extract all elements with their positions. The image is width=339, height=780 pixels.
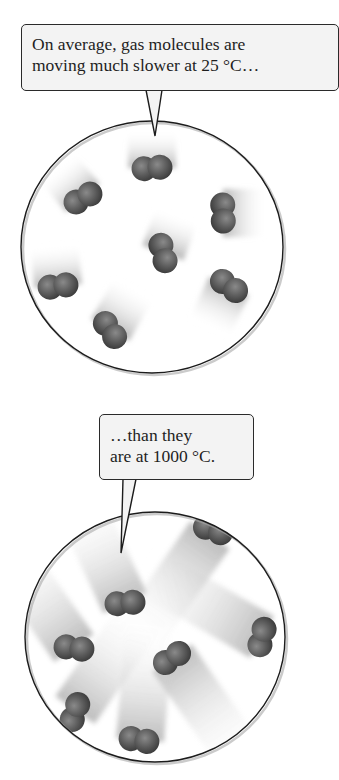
bottom-callout-line-2: are at 1000 °C.	[110, 446, 253, 467]
top-callout-line-2: moving much slower at 25 °C…	[32, 55, 338, 76]
bottom-callout: …than they are at 1000 °C.	[99, 414, 254, 480]
top-panel	[21, 89, 285, 375]
molecule	[210, 192, 236, 234]
top-callout: On average, gas molecules are moving muc…	[21, 24, 339, 91]
bottom-callout-line-1: …than they	[110, 425, 253, 446]
top-callout-line-1: On average, gas molecules are	[32, 34, 338, 55]
bottom-panel	[0, 478, 287, 778]
